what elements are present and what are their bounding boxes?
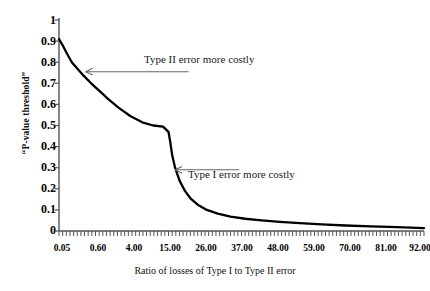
x-tick-label: 70.00 bbox=[339, 243, 360, 253]
annotation-leader-lines bbox=[86, 68, 240, 173]
chart-figure: “P-value threshold” 1 0.9 0.8 0.7 0.6 0.… bbox=[0, 0, 430, 291]
x-tick-label: 59.00 bbox=[303, 243, 324, 253]
x-tick-label: 37.00 bbox=[231, 243, 252, 253]
data-series-line bbox=[59, 39, 424, 228]
annotation-label-type-ii: Type II error more costly bbox=[144, 53, 254, 65]
x-tick-label: 0.05 bbox=[54, 243, 71, 253]
annotation-label-type-i: Type I error more costly bbox=[188, 168, 295, 180]
x-tick-label: 81.00 bbox=[375, 243, 396, 253]
x-tick-label: 15.00 bbox=[159, 243, 180, 253]
x-tick-label: 26.00 bbox=[195, 243, 216, 253]
x-axis-tick-marks bbox=[59, 231, 424, 236]
x-tick-label: 4.00 bbox=[126, 243, 143, 253]
x-axis-title: Ratio of losses of Type I to Type II err… bbox=[0, 265, 430, 276]
x-tick-label: 0.60 bbox=[90, 243, 107, 253]
x-tick-label: 92.00 bbox=[409, 243, 430, 253]
x-tick-label: 48.00 bbox=[267, 243, 288, 253]
